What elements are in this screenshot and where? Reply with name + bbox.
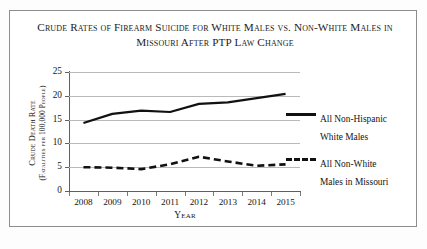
y-tick-label: 10: [40, 137, 62, 147]
x-tick-mark: [156, 192, 157, 196]
y-tick-label: 20: [40, 90, 62, 100]
legend-label: All Non-WhiteMales in Missouri: [320, 159, 388, 187]
legend-item-1[interactable]: All Non-HispanicWhite Males: [286, 108, 418, 144]
legend-label-line-1: All Non-Hispanic: [320, 114, 387, 124]
legend-swatch-dashed: [286, 158, 316, 161]
series-layer: [69, 72, 300, 191]
x-axis-title: Year: [69, 210, 301, 220]
x-tick-mark: [271, 192, 272, 196]
y-axis-title-line-1: Crude Death Rate: [28, 68, 38, 198]
y-tick-label: 0: [40, 185, 62, 195]
x-tick-mark: [185, 192, 186, 196]
x-tick-mark: [127, 192, 128, 196]
legend-label-line-2: White Males: [320, 132, 368, 142]
x-tick-mark: [69, 192, 70, 196]
series-line-2: [83, 157, 285, 169]
legend-item-2[interactable]: All Non-WhiteMales in Missouri: [286, 153, 418, 189]
x-tick-mark: [98, 192, 99, 196]
x-tick-mark: [242, 192, 243, 196]
chart-legend: All Non-HispanicWhite MalesAll Non-White…: [286, 108, 418, 198]
y-axis-title-line-2: (Fatalities per 100,000 People): [38, 68, 48, 198]
legend-label-line-2: Males in Missouri: [320, 177, 388, 187]
y-axis-title: Crude Death Rate (Fatalities per 100,000…: [28, 68, 48, 198]
x-tick-mark: [213, 192, 214, 196]
plot-wrapper: Crude Death Rate (Fatalities per 100,000…: [0, 0, 427, 249]
legend-label-line-1: All Non-White: [320, 159, 377, 169]
y-tick-label: 25: [40, 66, 62, 76]
y-tick-label: 5: [40, 161, 62, 171]
legend-swatch-solid: [286, 113, 316, 116]
series-line-1: [83, 94, 285, 123]
y-tick-label: 15: [40, 114, 62, 124]
figure-container: Crude Rates of Firearm Suicide for White…: [0, 0, 427, 249]
x-tick-label: 2015: [269, 197, 303, 207]
plot-area: [69, 72, 300, 191]
legend-label: All Non-HispanicWhite Males: [320, 114, 387, 142]
